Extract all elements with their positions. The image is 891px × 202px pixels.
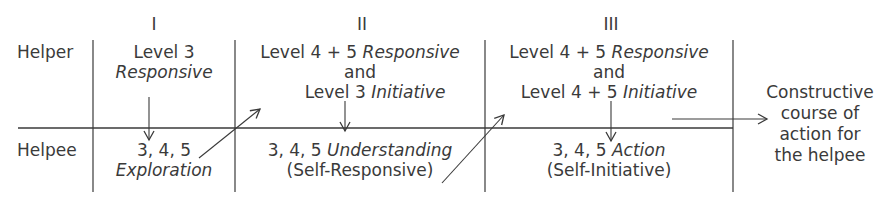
helper-stage-2-conjunction: and [236,62,484,82]
helper-stage-1-mode: Responsive [94,62,234,82]
outcome-line-4: the helpee [762,145,878,166]
helpee-stage-3-line1: 3, 4, 5 Action [486,140,732,160]
helper-cell-stage-1: Level 3 Responsive [94,42,234,82]
outcome-line-2: course of [762,103,878,124]
helper-stage-3-line3: Level 4 + 5 Initiative [486,82,732,102]
helpee-cell-stage-1: 3, 4, 5 Exploration [94,140,234,180]
helper-stage-2-mode-a: Responsive [363,42,460,62]
column-numeral-3: III [596,14,626,34]
helper-stage-2-line3: Level 3 Initiative [266,82,484,102]
helper-stage-2-level-b: Level 3 [305,82,372,102]
helper-stage-2-mode-b: Initiative [371,82,445,102]
helpee-stage-3-subtitle: (Self-Initiative) [486,160,732,180]
helpee-stage-1-activity: Exploration [94,160,234,180]
outcome-line-1: Constructive [762,82,878,103]
column-numeral-1: I [144,14,164,34]
outcome-line-3: action for [762,124,878,145]
helpee-cell-stage-3: 3, 4, 5 Action (Self-Initiative) [486,140,732,180]
helper-stage-3-conjunction: and [486,62,732,82]
outcome-text: Constructive course of action for the he… [762,82,878,166]
row-label-helper: Helper [17,42,73,62]
helper-cell-stage-3: Level 4 + 5 Responsive and Level 4 + 5 I… [486,42,732,102]
helper-stage-3-line1: Level 4 + 5 Responsive [486,42,732,62]
helper-stage-3-mode-a: Responsive [612,42,709,62]
row-label-helpee: Helpee [17,140,77,160]
helpee-stage-2-line1: 3, 4, 5 Understanding [236,140,484,160]
helpee-stage-2-levels: 3, 4, 5 [268,140,327,160]
helper-cell-stage-2: Level 4 + 5 Responsive and Level 3 Initi… [236,42,484,102]
helper-stage-3-level-b: Level 4 + 5 [521,82,623,102]
helpee-stage-2-activity: Understanding [327,140,452,160]
column-numeral-2: II [352,14,372,34]
helpee-stage-1-levels: 3, 4, 5 [94,140,234,160]
helper-stage-2-level-a: Level 4 + 5 [260,42,362,62]
helpee-cell-stage-2: 3, 4, 5 Understanding (Self-Responsive) [236,140,484,180]
helper-stage-3-level-a: Level 4 + 5 [509,42,611,62]
helpee-stage-3-activity: Action [612,140,666,160]
helper-stage-3-mode-b: Initiative [623,82,697,102]
helper-stage-1-level: Level 3 [94,42,234,62]
helper-stage-2-line1: Level 4 + 5 Responsive [236,42,484,62]
helpee-stage-2-subtitle: (Self-Responsive) [236,160,484,180]
helpee-stage-3-levels: 3, 4, 5 [552,140,611,160]
